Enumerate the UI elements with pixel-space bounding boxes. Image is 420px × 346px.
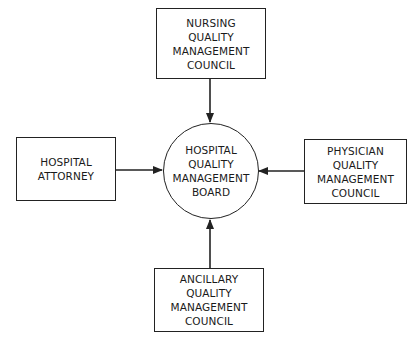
node-label-line: MANAGEMENT xyxy=(173,44,250,58)
node-label-line: MANAGEMENT xyxy=(173,171,250,185)
node-label-line: QUALITY xyxy=(171,286,248,300)
node-label-line: PHYSICIAN xyxy=(317,144,394,158)
node-hospital-attorney: HOSPITAL ATTORNEY xyxy=(16,137,116,201)
node-label-line: COUNCIL xyxy=(171,314,248,328)
node-label-line: ATTORNEY xyxy=(38,169,94,183)
node-label-line: HOSPITAL xyxy=(38,155,94,169)
node-label-line: COUNCIL xyxy=(317,186,394,200)
node-label-line: QUALITY xyxy=(173,157,250,171)
node-label-line: QUALITY xyxy=(173,30,250,44)
node-hospital-quality-management-board: HOSPITAL QUALITY MANAGEMENT BOARD xyxy=(163,123,259,219)
node-label-line: MANAGEMENT xyxy=(171,300,248,314)
node-label-line: NURSING xyxy=(173,16,250,30)
node-label-line: QUALITY xyxy=(317,158,394,172)
node-label-line: ANCILLARY xyxy=(171,272,248,286)
node-nursing-quality-management-council: NURSING QUALITY MANAGEMENT COUNCIL xyxy=(156,8,266,79)
node-label-line: HOSPITAL xyxy=(173,143,250,157)
node-label-line: MANAGEMENT xyxy=(317,172,394,186)
node-physician-quality-management-council: PHYSICIAN QUALITY MANAGEMENT COUNCIL xyxy=(304,139,407,204)
node-label-line: COUNCIL xyxy=(173,58,250,72)
node-ancillary-quality-management-council: ANCILLARY QUALITY MANAGEMENT COUNCIL xyxy=(154,268,264,332)
node-label-line: BOARD xyxy=(173,185,250,199)
